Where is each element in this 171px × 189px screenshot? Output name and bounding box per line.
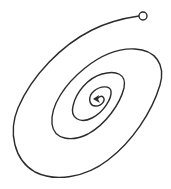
start-circle-icon bbox=[139, 12, 147, 20]
spiral-path bbox=[13, 16, 161, 177]
spiral-svg bbox=[0, 0, 171, 189]
arrowhead-icon bbox=[93, 95, 100, 103]
spiral-diagram bbox=[0, 0, 171, 189]
